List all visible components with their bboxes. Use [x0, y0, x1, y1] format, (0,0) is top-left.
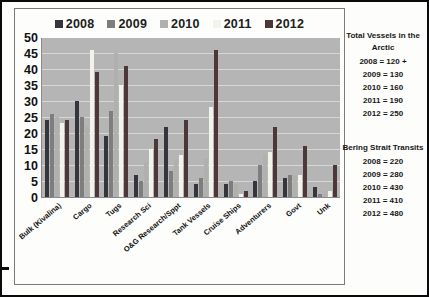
- bar-2008: [75, 101, 79, 197]
- bar-2008: [224, 184, 228, 197]
- bar-2010: [55, 117, 59, 197]
- x-label-cell: Tugs: [101, 198, 131, 284]
- bar-2011: [209, 107, 213, 197]
- bar-2012: [303, 146, 307, 197]
- panel-line: 2011 = 410: [341, 195, 425, 208]
- x-label-cell: Adventurers: [250, 198, 280, 284]
- y-axis: 50454035302520151050: [15, 38, 41, 198]
- bar-2011: [268, 152, 272, 197]
- chart-frame: 20082009201020112012 5045403530252015105…: [14, 8, 345, 285]
- bar-2010: [114, 53, 118, 197]
- x-axis-labels: Bulk (Kivalina)CargoTugsResearch SciO&G …: [41, 198, 340, 284]
- bar-2010: [293, 175, 297, 197]
- bar-group: [251, 38, 281, 197]
- x-tick-label: Cargo: [71, 201, 93, 222]
- side-panel: Total Vessels in the Arctic2008 = 120 +2…: [341, 30, 425, 242]
- bar-group: [72, 38, 102, 197]
- bar-2011: [179, 155, 183, 197]
- x-tick-label: Tugs: [104, 201, 123, 219]
- bar-group: [280, 38, 310, 197]
- panel-line: 2011 = 190: [341, 95, 425, 108]
- bar-group: [191, 38, 221, 197]
- bar-2009: [50, 114, 54, 197]
- bar-2012: [154, 139, 158, 197]
- panel-line: 2009 = 130: [341, 69, 425, 82]
- bar-2010: [323, 191, 327, 197]
- legend-swatch-icon: [107, 20, 115, 28]
- legend-swatch-icon: [55, 20, 63, 28]
- y-tick-label: 30: [16, 95, 38, 109]
- plot-area: [41, 38, 340, 198]
- legend-label: 2009: [118, 17, 147, 31]
- legend-label: 2012: [276, 17, 305, 31]
- bar-2008: [283, 178, 287, 197]
- bar-group: [42, 38, 72, 197]
- y-tick-label: 40: [16, 63, 38, 77]
- bar-2009: [139, 181, 143, 197]
- bar-2010: [263, 155, 267, 197]
- legend-item-2009: 2009: [107, 17, 147, 31]
- y-tick-label: 20: [16, 127, 38, 141]
- bar-group: [161, 38, 191, 197]
- bar-2010: [174, 159, 178, 197]
- bar-2011: [90, 50, 94, 197]
- y-tick-label: 10: [16, 159, 38, 173]
- legend-item-2008: 2008: [55, 17, 95, 31]
- x-label-cell: Cargo: [71, 198, 101, 284]
- scan-artifact-mark: [2, 267, 9, 270]
- bar-2012: [124, 66, 128, 197]
- chart-image: { "chart_data": { "type": "bar", "title"…: [0, 0, 429, 297]
- bar-2009: [288, 175, 292, 197]
- x-tick-label: Bulk (Kivalina): [18, 201, 64, 241]
- bar-2009: [258, 165, 262, 197]
- bar-2008: [134, 175, 138, 197]
- bar-2012: [244, 191, 248, 197]
- bar-2012: [333, 165, 337, 197]
- bar-2010: [144, 162, 148, 197]
- panel-line: 2010 = 430: [341, 182, 425, 195]
- x-label-cell: Bulk (Kivalina): [41, 198, 71, 284]
- bar-group: [131, 38, 161, 197]
- panel-block: Total Vessels in the Arctic2008 = 120 +2…: [341, 30, 425, 121]
- panel-title: Total Vessels in the Arctic: [341, 30, 425, 54]
- legend: 20082009201020112012: [15, 12, 344, 36]
- legend-item-2012: 2012: [265, 17, 305, 31]
- panel-title: Bering Strait Transits: [341, 142, 425, 154]
- y-tick-label: 25: [16, 111, 38, 125]
- bar-2010: [204, 159, 208, 197]
- bar-2008: [313, 187, 317, 197]
- x-label-cell: Govt: [280, 198, 310, 284]
- bar-2008: [164, 127, 168, 197]
- legend-swatch-icon: [213, 20, 221, 28]
- bar-2012: [214, 50, 218, 197]
- y-tick-label: 0: [16, 191, 38, 205]
- bar-2009: [169, 171, 173, 197]
- bar-group: [310, 38, 340, 197]
- bar-2009: [318, 194, 322, 197]
- legend-item-2011: 2011: [213, 17, 252, 31]
- legend-label: 2010: [171, 17, 200, 31]
- bar-2012: [65, 120, 69, 197]
- bar-2012: [95, 72, 99, 197]
- legend-label: 2011: [224, 17, 252, 31]
- y-tick-label: 35: [16, 79, 38, 93]
- panel-line: 2012 = 250: [341, 108, 425, 121]
- bar-group: [102, 38, 132, 197]
- bar-2011: [119, 85, 123, 197]
- legend-swatch-icon: [265, 20, 273, 28]
- y-tick-label: 15: [16, 143, 38, 157]
- panel-line: 2009 = 280: [341, 169, 425, 182]
- x-label-cell: Tank Vessels: [191, 198, 221, 284]
- bar-2011: [328, 191, 332, 197]
- bar-2010: [85, 127, 89, 197]
- bar-2011: [60, 123, 64, 197]
- x-tick-label: Unk: [316, 201, 333, 217]
- x-tick-label: Govt: [284, 201, 303, 219]
- bar-2012: [184, 120, 188, 197]
- bar-2008: [104, 136, 108, 197]
- y-tick-label: 5: [16, 175, 38, 189]
- bar-2009: [229, 181, 233, 197]
- bar-2011: [149, 149, 153, 197]
- bar-2009: [80, 117, 84, 197]
- bar-2009: [199, 178, 203, 197]
